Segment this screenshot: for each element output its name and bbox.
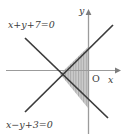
line1-equation-label: x+y+7=0 — [8, 19, 55, 30]
math-figure: x+y+7=0 x−y+3=0 O x y — [0, 0, 124, 139]
x-axis-label: x — [108, 74, 114, 85]
figure-canvas: x+y+7=0 x−y+3=0 O x y — [0, 0, 124, 139]
x-axis-arrow-icon — [115, 68, 121, 74]
y-axis-label: y — [78, 5, 85, 16]
line2-equation-label: x−y+3=0 — [6, 119, 53, 130]
line-x-minus-y-plus-3 — [25, 25, 113, 112]
origin-label: O — [92, 73, 100, 84]
y-axis-arrow-icon — [86, 9, 92, 15]
shaded-region — [60, 47, 88, 108]
